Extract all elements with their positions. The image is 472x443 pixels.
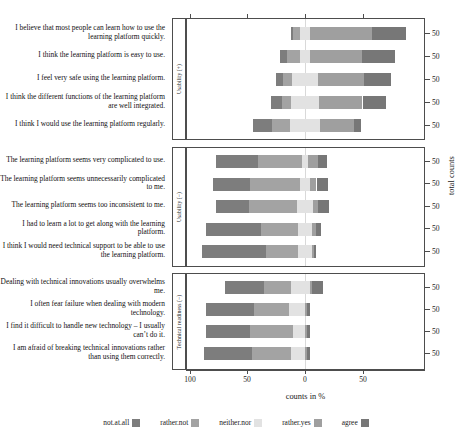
statement-label: I feel very safe using the learning plat… xyxy=(0,74,168,83)
bar-segment-rather-not xyxy=(293,27,300,40)
x-tick-label-50-left: 50 xyxy=(243,375,251,384)
statement-label: I had to learn a lot to get along with t… xyxy=(0,220,168,237)
strip-label-text: Usability (+) xyxy=(176,64,182,94)
bar-row xyxy=(253,119,361,132)
bar-segment-rather-yes xyxy=(319,96,363,109)
bar-segment-not-at-all xyxy=(280,50,287,63)
likert-chart-figure: Usability (+) Usability (−) Technical re… xyxy=(0,0,472,443)
total-count-label: 50 xyxy=(432,74,440,83)
panel-plot-area-2 xyxy=(187,274,424,369)
bar-segment-rather-not xyxy=(261,223,298,236)
bar-segment-neither-nor xyxy=(291,281,309,294)
right-axis-tick xyxy=(425,353,430,354)
total-count-label: 50 xyxy=(432,304,440,313)
bar-segment-neither-nor xyxy=(289,303,305,316)
statement-label: I find it difficult to handle new techno… xyxy=(0,322,168,339)
x-tick-50-left xyxy=(247,370,248,374)
bar-segment-agree xyxy=(363,96,386,109)
right-axis-tick xyxy=(425,331,430,332)
panel-technical-readiness xyxy=(186,273,425,370)
bar-segment-rather-not xyxy=(287,50,301,63)
statement-label: I am afraid of breaking technical innova… xyxy=(0,344,168,361)
bar-segment-not-at-all xyxy=(216,200,248,213)
x-axis-title: counts in % xyxy=(186,392,425,401)
bar-segment-agree xyxy=(318,155,327,168)
bar-segment-agree xyxy=(312,281,324,294)
x-tick-100 xyxy=(190,370,191,374)
bar-segment-not-at-all xyxy=(276,73,283,86)
legend-item-neither-nor: neither.nor xyxy=(219,418,262,427)
panel-plot-area-0 xyxy=(187,19,424,139)
right-axis-tick xyxy=(425,206,430,207)
bar-row xyxy=(216,155,326,168)
bar-segment-agree xyxy=(316,223,321,236)
legend-swatch-icon xyxy=(191,419,199,427)
x-tick-label-100: 100 xyxy=(184,375,195,384)
legend-swatch-icon xyxy=(132,419,140,427)
bar-segment-not-at-all xyxy=(206,223,261,236)
bar-segment-not-at-all xyxy=(225,281,264,294)
bar-segment-not-at-all xyxy=(206,303,254,316)
bar-segment-rather-yes xyxy=(310,50,363,63)
x-tick-label-0: 0 xyxy=(303,375,307,384)
x-tick-50-right xyxy=(363,370,364,374)
bar-segment-rather-not xyxy=(254,303,289,316)
total-count-label: 50 xyxy=(432,246,440,255)
bar-segment-neither-nor xyxy=(302,155,309,168)
bar-segment-neither-nor xyxy=(300,178,309,191)
bar-segment-agree xyxy=(362,50,394,63)
statement-label: The learning platform seems very complic… xyxy=(0,156,168,165)
statement-label: The learning platform seems unnecessaril… xyxy=(0,175,168,192)
bar-segment-agree xyxy=(307,325,309,338)
strip-label-text: Technical readiness (−) xyxy=(176,294,182,348)
bar-segment-rather-not xyxy=(272,119,290,132)
bar-segment-rather-not xyxy=(282,96,291,109)
bar-segment-not-at-all xyxy=(204,347,252,360)
legend-item-agree: agree xyxy=(342,418,369,427)
total-count-label: 50 xyxy=(432,179,440,188)
bar-row xyxy=(216,200,329,213)
right-axis-tick xyxy=(425,309,430,310)
panel-usability-negative xyxy=(186,147,425,267)
x-tick-label-50-right: 50 xyxy=(359,375,367,384)
bar-segment-not-at-all xyxy=(271,96,283,109)
strip-technical-readiness: Technical readiness (−) xyxy=(172,273,186,370)
bar-segment-agree xyxy=(307,303,309,316)
statement-label: I think I would use the learning platfor… xyxy=(0,120,168,129)
total-count-label: 50 xyxy=(432,201,440,210)
bar-segment-rather-not xyxy=(252,347,291,360)
total-count-label: 50 xyxy=(432,120,440,129)
bar-segment-rather-yes xyxy=(318,73,364,86)
bar-segment-rather-not xyxy=(266,245,298,258)
bar-segment-neither-nor xyxy=(298,223,312,236)
bar-segment-neither-nor xyxy=(292,73,317,86)
bar-segment-not-at-all xyxy=(213,178,250,191)
legend-item-rather-yes: rather.yes xyxy=(282,418,322,427)
legend-label: rather.yes xyxy=(282,418,311,427)
legend-item-rather-not: rather.not xyxy=(160,418,199,427)
total-count-label: 50 xyxy=(432,51,440,60)
bar-row xyxy=(206,223,321,236)
bar-segment-neither-nor xyxy=(297,200,313,213)
bar-row xyxy=(204,347,310,360)
total-count-label: 50 xyxy=(432,282,440,291)
total-count-label: 50 xyxy=(432,326,440,335)
legend-label: not.at.all xyxy=(103,418,129,427)
legend-swatch-icon xyxy=(314,419,322,427)
bar-segment-rather-not xyxy=(258,155,302,168)
statement-label: I often fear failure when dealing with m… xyxy=(0,300,168,317)
right-axis-tick xyxy=(425,183,430,184)
bar-row xyxy=(276,73,391,86)
bar-segment-agree xyxy=(364,73,392,86)
bar-segment-neither-nor xyxy=(300,27,309,40)
right-axis-tick xyxy=(425,287,430,288)
legend-label: neither.nor xyxy=(219,418,251,427)
bar-row xyxy=(206,303,310,316)
right-axis-tick xyxy=(425,102,430,103)
legend: not.at.allrather.notneither.norrather.ye… xyxy=(0,418,472,427)
bar-segment-rather-not xyxy=(249,200,297,213)
total-count-label: 50 xyxy=(432,97,440,106)
legend-label: rather.not xyxy=(160,418,188,427)
legend-item-not-at-all: not.at.all xyxy=(103,418,140,427)
bar-row xyxy=(291,27,406,40)
